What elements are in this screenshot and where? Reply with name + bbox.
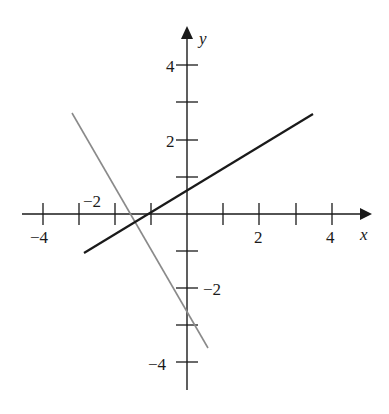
black-line <box>84 114 313 253</box>
y-tick-label-neg2: −2 <box>203 280 221 299</box>
coordinate-plane: y x 4 2 −2 −4 −4 −2 2 4 <box>0 0 389 414</box>
y-tick-label-4: 4 <box>166 57 175 76</box>
x-tick-label-2: 2 <box>254 228 263 247</box>
x-tick-label-4: 4 <box>326 228 335 247</box>
x-axis-arrow-icon <box>360 208 372 220</box>
x-tick-label-neg2: −2 <box>83 192 101 211</box>
y-axis-arrow-icon <box>181 26 193 39</box>
y-axis-label: y <box>197 29 207 48</box>
y-tick-label-neg4: −4 <box>148 355 167 374</box>
y-tick-label-2: 2 <box>166 132 175 151</box>
x-axis-label: x <box>359 225 368 244</box>
x-tick-label-neg4: −4 <box>30 228 49 247</box>
